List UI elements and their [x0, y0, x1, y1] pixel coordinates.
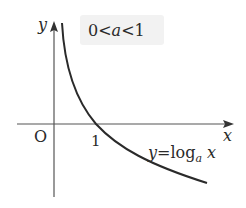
log-function-graph: y x O 1 0<a<1 y=loga x [0, 0, 246, 208]
condition-label: 0<a<1 [88, 21, 145, 40]
y-axis-label: y [37, 15, 48, 34]
x-axis-label: x [223, 126, 232, 145]
origin-label: O [34, 127, 47, 146]
y-axis [50, 21, 58, 197]
curve-label: y=loga x [147, 143, 216, 165]
x-tick-one: 1 [91, 132, 101, 150]
x-axis [17, 120, 234, 128]
